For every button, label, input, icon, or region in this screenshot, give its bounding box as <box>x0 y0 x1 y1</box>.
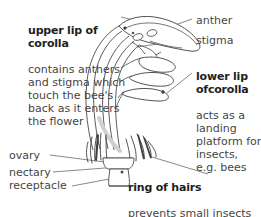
annotation-upper-lip-heading: upper lip of corolla <box>28 24 130 50</box>
annotation-lower-lip-heading: lower lip ofcorolla <box>196 70 261 96</box>
anther-dot-2 <box>132 32 135 35</box>
flower-diagram-page: upper lip of corolla contains anthers an… <box>0 0 261 217</box>
label-ovary: ovary <box>9 149 40 162</box>
annotation-upper-lip: upper lip of corolla contains anthers an… <box>28 11 130 141</box>
label-anther: anther <box>196 14 232 27</box>
annotation-upper-lip-body: contains anthers and stigma which touch … <box>28 63 130 128</box>
annotation-ring-of-hairs-heading: ring of hairs <box>128 181 261 194</box>
nectary-dot <box>121 171 124 174</box>
label-receptacle: receptacle <box>9 179 67 192</box>
receptacle <box>109 169 130 186</box>
annotation-lower-lip-body: acts as a landing platform for insects, … <box>196 109 261 174</box>
cut-off-text-sliver <box>6 210 186 215</box>
upper-lip-of-corolla <box>119 16 200 51</box>
label-stigma: stigma <box>196 34 234 47</box>
label-nectary: nectary <box>9 166 51 179</box>
